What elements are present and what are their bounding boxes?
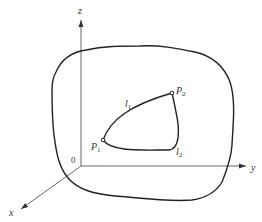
- x-axis-label: x: [8, 207, 14, 218]
- surface-boundary: [52, 46, 234, 201]
- x-axis: [21, 166, 81, 209]
- diagram-canvas: z y x 0 P1 P2 l1 l2: [0, 0, 262, 222]
- y-axis-label: y: [250, 162, 256, 173]
- p2-label: P2: [175, 85, 186, 98]
- point-p2: [170, 91, 174, 95]
- l2-label: l2: [176, 146, 183, 159]
- z-axis-label: z: [77, 5, 82, 16]
- point-p1: [101, 138, 105, 142]
- origin-label: 0: [71, 155, 76, 165]
- p1-label: P1: [90, 141, 101, 154]
- path-l1: [103, 93, 172, 140]
- l1-label: l1: [125, 98, 132, 111]
- diagram-svg: z y x 0 P1 P2 l1 l2: [0, 0, 262, 222]
